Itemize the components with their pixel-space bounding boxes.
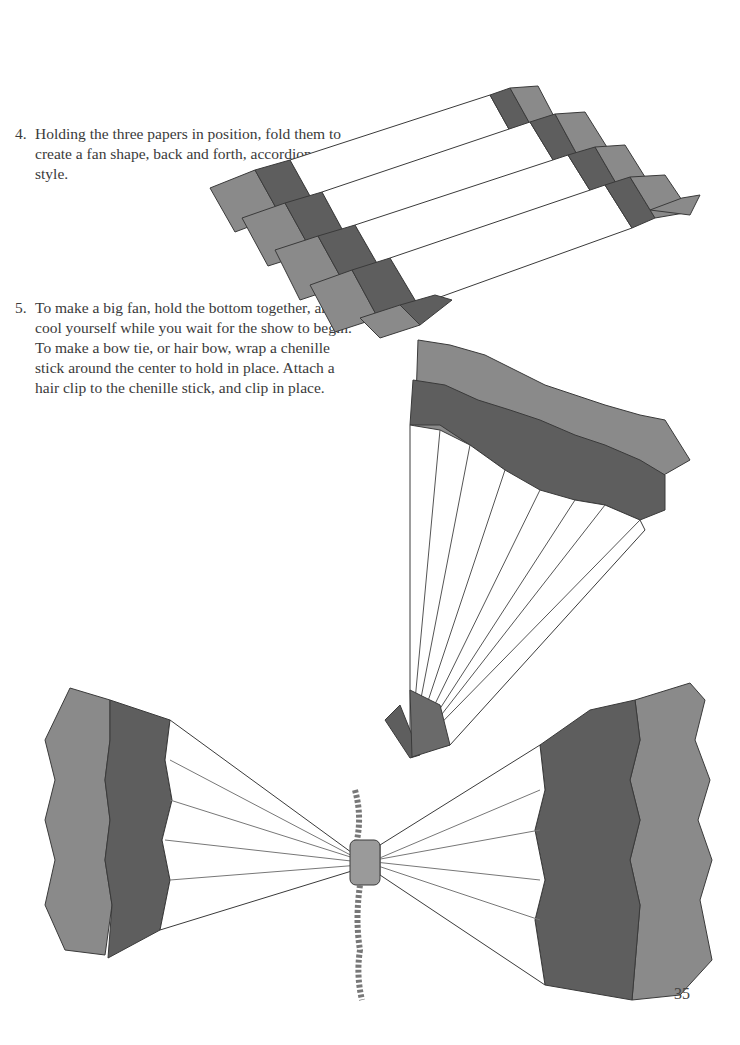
paper-fan-illustration bbox=[385, 340, 690, 758]
illustrations bbox=[0, 0, 740, 1045]
chenille-wrap bbox=[350, 840, 380, 885]
bow-tie-illustration bbox=[45, 683, 712, 1000]
chenille-stick bbox=[355, 790, 362, 1000]
accordion-folded-papers-illustration bbox=[210, 86, 700, 338]
page-number: 35 bbox=[674, 985, 690, 1003]
